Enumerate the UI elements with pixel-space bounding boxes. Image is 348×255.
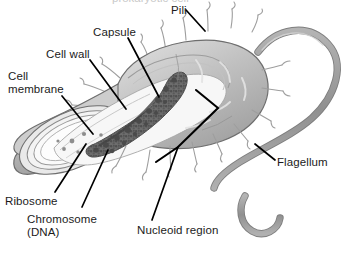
leader-nucleoid	[152, 147, 178, 220]
label-ribosome: Ribosome	[5, 195, 58, 208]
leader-pili	[186, 10, 205, 31]
label-cell-wall: Cell wall	[46, 48, 90, 61]
label-cell-membrane-line1: Cell	[8, 70, 94, 83]
label-chromosome-dna: Chromosome (DNA)	[27, 213, 137, 239]
label-pili: Pili	[171, 4, 187, 17]
label-chromosome-line2: (DNA)	[27, 226, 137, 239]
bacterial-cell-diagram: prokaryotic cell	[0, 0, 348, 255]
label-cell-membrane-line2: membrane	[8, 83, 94, 96]
label-chromosome-line1: Chromosome	[27, 213, 137, 226]
label-cell-membrane: Cell membrane	[8, 70, 94, 96]
label-nucleoid-region: Nucleoid region	[137, 224, 218, 237]
label-capsule: Capsule	[93, 26, 136, 39]
label-flagellum: Flagellum	[277, 156, 328, 169]
